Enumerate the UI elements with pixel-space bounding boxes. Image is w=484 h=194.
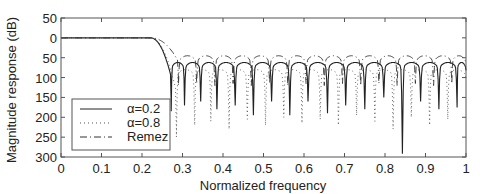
x-tick-label: 0.1 bbox=[92, 161, 110, 176]
series-line-remez bbox=[61, 38, 466, 86]
y-tick-label: 200 bbox=[35, 110, 57, 125]
magnitude-response-chart: 00.10.20.30.40.50.60.70.80.91 5005010015… bbox=[0, 0, 484, 194]
legend-label-alpha-0-2: α=0.2 bbox=[127, 101, 160, 116]
x-tick-label: 1 bbox=[462, 161, 469, 176]
y-axis-label: Magnitude response (dB) bbox=[4, 17, 19, 163]
legend-label-alpha-0-8: α=0.8 bbox=[127, 115, 160, 130]
legend-label-remez: Remez bbox=[127, 129, 168, 144]
x-axis-label: Normalized frequency bbox=[200, 178, 327, 193]
x-tick-label: 0.5 bbox=[254, 161, 272, 176]
x-tick-label: 0.8 bbox=[376, 161, 394, 176]
x-tick-label: 0 bbox=[57, 161, 64, 176]
x-tick-label: 0.4 bbox=[214, 161, 232, 176]
x-tick-label: 0.7 bbox=[335, 161, 353, 176]
y-tick-label: 50 bbox=[43, 11, 57, 26]
x-tick-labels: 00.10.20.30.40.50.60.70.80.91 bbox=[57, 161, 469, 176]
y-tick-label: 100 bbox=[35, 71, 57, 86]
x-tick-label: 0.9 bbox=[416, 161, 434, 176]
y-tick-label: 250 bbox=[35, 130, 57, 145]
legend: α=0.2 α=0.8 Remez bbox=[72, 99, 170, 150]
y-tick-label: 0 bbox=[50, 31, 57, 46]
x-tick-label: 0.2 bbox=[133, 161, 151, 176]
x-tick-label: 0.3 bbox=[173, 161, 191, 176]
y-tick-labels: 50050100150200250300 bbox=[35, 11, 57, 165]
y-tick-label: 50 bbox=[43, 51, 57, 66]
x-tick-label: 0.6 bbox=[295, 161, 313, 176]
y-tick-label: 300 bbox=[35, 150, 57, 165]
y-tick-label: 150 bbox=[35, 90, 57, 105]
